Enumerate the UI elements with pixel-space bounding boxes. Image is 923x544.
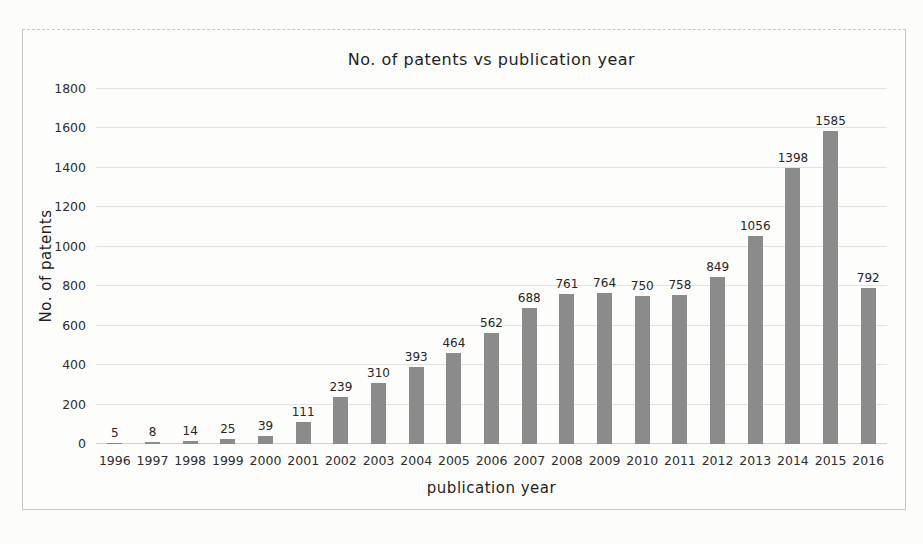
y-tick-label: 1600 xyxy=(54,120,86,135)
bar-value-label: 25 xyxy=(220,422,235,436)
bar-value-label: 111 xyxy=(292,405,315,419)
x-tick-labels-row: 1996199719981999200020012002200320042005… xyxy=(96,453,887,468)
plot-area: 020040060080010001200140016001800 581425… xyxy=(96,89,887,444)
bar-value-label: 464 xyxy=(442,336,465,350)
bar-value-label: 39 xyxy=(258,419,273,433)
bar xyxy=(183,441,198,444)
bar-group-1997: 8 xyxy=(134,89,172,444)
x-tick-label: 1999 xyxy=(209,453,247,468)
bar-value-label: 792 xyxy=(857,271,880,285)
bar xyxy=(861,288,876,444)
x-tick-label: 2008 xyxy=(548,453,586,468)
x-tick-label: 2014 xyxy=(774,453,812,468)
y-tick-label: 800 xyxy=(62,278,86,293)
bar-value-label: 239 xyxy=(329,380,352,394)
x-tick-label: 2006 xyxy=(473,453,511,468)
bar-group-2013: 1056 xyxy=(736,89,774,444)
bar-value-label: 310 xyxy=(367,366,390,380)
bar-value-label: 5 xyxy=(111,426,119,440)
bar-value-label: 393 xyxy=(405,350,428,364)
x-tick-label: 2010 xyxy=(623,453,661,468)
bar-value-label: 764 xyxy=(593,276,616,290)
bar xyxy=(785,168,800,444)
x-tick-label: 2004 xyxy=(397,453,435,468)
bar xyxy=(220,439,235,444)
bar-group-2004: 393 xyxy=(397,89,435,444)
y-tick-label: 0 xyxy=(78,436,86,451)
bar-group-2001: 111 xyxy=(284,89,322,444)
bar xyxy=(145,442,160,444)
bar xyxy=(446,353,461,445)
bar xyxy=(484,333,499,444)
bar xyxy=(597,293,612,444)
x-tick-label: 2011 xyxy=(661,453,699,468)
bar-value-label: 1398 xyxy=(778,151,809,165)
y-axis-label: No. of patents xyxy=(37,153,55,266)
bar-value-label: 14 xyxy=(183,424,198,438)
bar-group-2007: 688 xyxy=(510,89,548,444)
bar-value-label: 1585 xyxy=(815,114,846,128)
bar-value-label: 562 xyxy=(480,316,503,330)
x-tick-label: 2005 xyxy=(435,453,473,468)
bar-group-2003: 310 xyxy=(360,89,398,444)
bar-group-2009: 764 xyxy=(586,89,624,444)
y-tick-label: 1000 xyxy=(54,238,86,253)
bar-group-2010: 750 xyxy=(623,89,661,444)
bar xyxy=(710,277,725,444)
bar-group-1996: 5 xyxy=(96,89,134,444)
bar-group-2000: 39 xyxy=(247,89,285,444)
bar-group-2014: 1398 xyxy=(774,89,812,444)
x-tick-label: 2015 xyxy=(812,453,850,468)
bar xyxy=(296,422,311,444)
y-tick-label: 1400 xyxy=(54,159,86,174)
bar xyxy=(635,296,650,444)
bar-value-label: 1056 xyxy=(740,219,771,233)
x-tick-label: 2009 xyxy=(586,453,624,468)
x-tick-label: 2002 xyxy=(322,453,360,468)
x-tick-label: 2007 xyxy=(510,453,548,468)
bar xyxy=(672,295,687,444)
x-tick-label: 2012 xyxy=(699,453,737,468)
bar xyxy=(258,436,273,444)
bar xyxy=(823,131,838,444)
bar-value-label: 849 xyxy=(706,260,729,274)
x-tick-label: 2013 xyxy=(736,453,774,468)
y-tick-label: 1800 xyxy=(54,81,86,96)
chart-title: No. of patents vs publication year xyxy=(96,50,887,69)
x-tick-label: 1998 xyxy=(171,453,209,468)
bar-group-2012: 849 xyxy=(699,89,737,444)
bar-value-label: 8 xyxy=(149,425,157,439)
y-tick-label: 600 xyxy=(62,317,86,332)
bar-value-label: 688 xyxy=(518,291,541,305)
bar xyxy=(748,236,763,444)
bar-value-label: 750 xyxy=(631,279,654,293)
bar-group-2005: 464 xyxy=(435,89,473,444)
x-tick-label: 2016 xyxy=(849,453,887,468)
bar xyxy=(107,443,122,444)
bar-group-1998: 14 xyxy=(171,89,209,444)
bar-value-label: 758 xyxy=(668,278,691,292)
bar xyxy=(559,294,574,444)
x-tick-label: 1997 xyxy=(134,453,172,468)
x-tick-label: 2000 xyxy=(247,453,285,468)
x-tick-label: 2003 xyxy=(360,453,398,468)
y-tick-label: 400 xyxy=(62,357,86,372)
x-tick-label: 1996 xyxy=(96,453,134,468)
y-tick-label: 1200 xyxy=(54,199,86,214)
bars-layer: 5814253911123931039346456268876176475075… xyxy=(96,89,887,444)
bar-value-label: 761 xyxy=(555,277,578,291)
x-axis-label: publication year xyxy=(96,479,887,497)
bar-group-2008: 761 xyxy=(548,89,586,444)
bar-group-2011: 758 xyxy=(661,89,699,444)
bar-group-2016: 792 xyxy=(849,89,887,444)
x-tick-label: 2001 xyxy=(284,453,322,468)
figure-border: No. of patents vs publication year No. o… xyxy=(22,29,906,510)
bar xyxy=(333,397,348,444)
y-tick-label: 200 xyxy=(62,396,86,411)
bar-group-2002: 239 xyxy=(322,89,360,444)
bar-group-2015: 1585 xyxy=(812,89,850,444)
bar-group-2006: 562 xyxy=(473,89,511,444)
bar xyxy=(522,308,537,444)
bar xyxy=(409,367,424,445)
bar xyxy=(371,383,386,444)
